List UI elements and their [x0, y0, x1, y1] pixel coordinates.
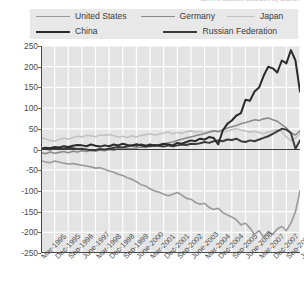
- legend-label-china: China: [75, 27, 97, 36]
- series-lines: [41, 50, 300, 237]
- chart-figure: current account balances by quarter Unit…: [0, 0, 304, 296]
- legend-item-japan: Japan: [227, 12, 283, 21]
- legend-item-united-states: United States: [36, 12, 127, 21]
- legend-row-1: United States Germany Japan: [30, 9, 298, 24]
- legend-label-japan: Japan: [260, 12, 283, 21]
- series-line-united-states: [41, 161, 300, 238]
- legend-swatch-germany: [141, 16, 175, 17]
- chart-legend: United States Germany Japan China Russia…: [30, 9, 298, 39]
- x-axis-labels: Mar-1995Dec-1995Sep-1996June-1997Mar-199…: [41, 253, 304, 296]
- legend-swatch-china: [36, 31, 70, 33]
- legend-item-russian-federation: Russian Federation: [163, 27, 277, 36]
- y-axis-line: [41, 46, 42, 253]
- y-axis-ticks: [0, 46, 41, 253]
- legend-label-russian-federation: Russian Federation: [202, 27, 277, 36]
- plot-area: [41, 46, 300, 253]
- legend-label-united-states: United States: [75, 12, 127, 21]
- clipped-header-text: current account balances by quarter: [201, 0, 300, 2]
- legend-label-germany: Germany: [180, 12, 215, 21]
- clipped-header-strip: current account balances by quarter: [0, 0, 304, 7]
- legend-swatch-united-states: [36, 16, 70, 17]
- plot-svg: [41, 46, 300, 253]
- legend-item-china: China: [36, 27, 97, 36]
- series-line-russian-federation: [41, 129, 300, 151]
- legend-swatch-japan: [227, 16, 255, 17]
- legend-item-germany: Germany: [141, 12, 215, 21]
- legend-swatch-russian-federation: [163, 31, 197, 33]
- legend-row-2: China Russian Federation: [30, 24, 298, 39]
